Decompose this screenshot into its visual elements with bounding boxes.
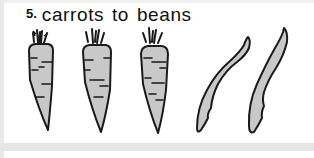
carrot-icon [83,29,111,132]
illustration [0,0,314,158]
carrot-icon [29,30,53,130]
bean-icon [249,28,287,132]
carrot-icon [141,28,168,133]
bean-icon [197,37,250,132]
